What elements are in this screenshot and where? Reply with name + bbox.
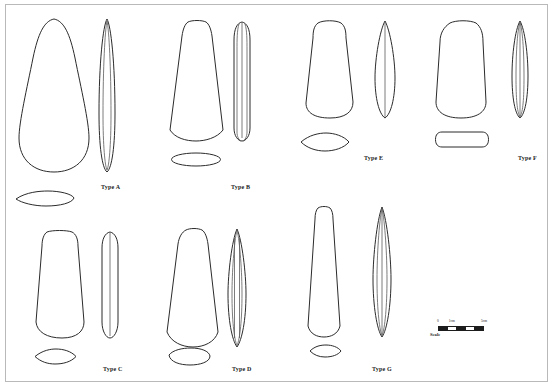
- scale-bar-ticks: 0 1cm 5cm: [438, 318, 484, 326]
- type-a-cross-section: [14, 190, 76, 207]
- scale-bar-segment: [448, 327, 457, 330]
- type-a-side-view: [97, 18, 117, 173]
- scale-bar: 0 1cm 5cm Scale: [430, 318, 492, 342]
- type-f-front-view: [432, 20, 492, 120]
- scale-bar-segment: [439, 327, 448, 330]
- scale-bar-segment: [475, 327, 483, 330]
- type-e-cross-section: [299, 132, 351, 152]
- page-frame-top-rule: [5, 4, 548, 5]
- type-b-cross-section: [170, 152, 222, 167]
- scale-bar-segment: [466, 327, 475, 330]
- type-d-cross-section: [167, 348, 212, 366]
- type-a-front-view: [16, 18, 92, 173]
- scale-bar-caption: Scale: [430, 332, 440, 337]
- type-g-side-view: [370, 206, 394, 338]
- type-d-label: Type D: [232, 366, 252, 372]
- type-c-side-view: [99, 230, 121, 340]
- type-e-front-view: [301, 20, 359, 120]
- type-c-front-view: [29, 230, 91, 340]
- type-a-label: Type A: [101, 184, 120, 190]
- scale-tick-0: 0: [437, 319, 439, 323]
- type-g-cross-section: [308, 344, 343, 358]
- scale-bar-segment: [457, 327, 466, 330]
- type-f-label: Type F: [518, 155, 537, 161]
- type-b-label: Type B: [231, 184, 250, 190]
- type-d-front-view: [163, 228, 223, 348]
- type-e-side-view: [372, 20, 398, 120]
- type-d-side-view: [225, 228, 249, 348]
- scale-tick-1cm: 1cm: [449, 319, 455, 323]
- type-g-front-view: [305, 206, 343, 338]
- type-f-cross-section: [434, 131, 490, 148]
- scale-tick-5cm: 5cm: [481, 319, 487, 323]
- type-c-label: Type C: [103, 366, 123, 372]
- type-b-front-view: [167, 20, 227, 142]
- type-e-label: Type E: [364, 155, 383, 161]
- page-frame-left-rule: [5, 4, 6, 382]
- type-c-cross-section: [33, 348, 78, 365]
- type-b-side-view: [232, 20, 252, 142]
- page-frame-right-rule: [547, 4, 548, 382]
- artefact-typology-plate: Type A Type B Type C: [0, 0, 558, 385]
- type-f-side-view: [509, 20, 531, 120]
- scale-bar-graphic: [438, 326, 484, 331]
- page-frame-bottom-rule: [5, 381, 548, 382]
- type-g-label: Type G: [372, 366, 392, 372]
